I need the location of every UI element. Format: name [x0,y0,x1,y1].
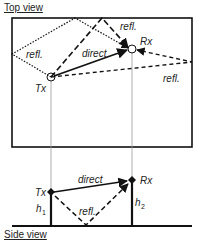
tx-label-top: Tx [35,83,47,94]
rx-antenna-top [128,45,136,53]
refl-label-left: refl. [26,49,43,60]
top-view-title: Top view [4,2,44,13]
h2-label: h 2 [135,197,145,210]
direct-label-top: direct [82,48,108,59]
rx-antenna-side [128,176,136,184]
side-view-title: Side view [4,229,48,240]
propagation-diagram: Top view Tx Rx direct refl. refl. refl. … [0,0,197,243]
tx-label-side: Tx [35,187,47,198]
refl-label-side: refl. [79,206,96,217]
refl-label-top: refl. [120,21,137,32]
svg-text:1: 1 [42,209,46,216]
refl-label-right: refl. [163,73,180,84]
direct-label-side: direct [78,174,104,185]
rx-label-side: Rx [140,175,153,186]
svg-text:2: 2 [141,203,145,210]
rx-label-top: Rx [140,36,153,47]
h1-label: h 1 [36,203,46,216]
tx-antenna-side [47,188,55,196]
